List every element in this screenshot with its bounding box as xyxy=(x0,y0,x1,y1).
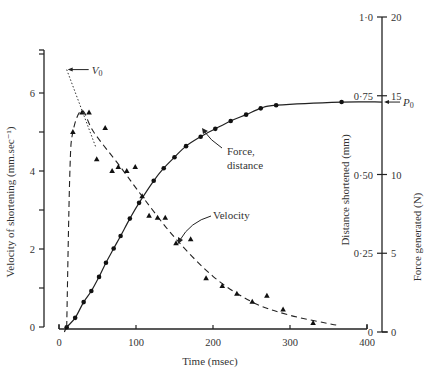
velocity-point xyxy=(155,215,161,220)
velocity-point xyxy=(86,110,92,115)
force-distance-point xyxy=(111,246,116,251)
velocity-point xyxy=(280,306,286,311)
y-left-tick-label: 2 xyxy=(30,244,35,255)
y-left-tick-label: 6 xyxy=(30,88,35,99)
y-distance-tick-label: 0·25 xyxy=(354,248,373,259)
force-distance-point xyxy=(137,201,142,206)
force-distance-point xyxy=(161,166,166,171)
x-tick-label: 0 xyxy=(56,337,61,348)
force-distance-point xyxy=(274,103,279,108)
velocity-point xyxy=(109,168,115,173)
force-distance-point xyxy=(213,127,218,132)
y-axis-distance-label: Distance shortened (mm) xyxy=(339,134,352,246)
series xyxy=(64,70,382,332)
force-distance-point xyxy=(97,275,102,280)
force-distance-point xyxy=(228,119,233,124)
velocity-point xyxy=(124,168,130,173)
p0-arrow-head xyxy=(384,100,389,104)
y-distance-tick-label: 0·75 xyxy=(354,91,373,102)
v0-arrow-head xyxy=(68,68,73,72)
force-distance-point xyxy=(118,234,123,239)
force-distance-point xyxy=(81,300,86,305)
y-axis-left-label: Velocity of shortening (mm.sec⁻¹) xyxy=(4,126,17,277)
velocity-label: Velocity xyxy=(213,209,250,221)
velocity-point xyxy=(234,291,240,296)
y-force-tick-label: 5 xyxy=(391,248,396,259)
y-force-tick-label: 15 xyxy=(391,91,402,102)
force-distance-label-line2: distance xyxy=(227,159,263,171)
v0-label: V0 xyxy=(92,64,103,78)
velocity-point xyxy=(219,283,225,288)
x-tick-label: 100 xyxy=(128,337,144,348)
chart: 010020030040002460050·25100·50150·75201·… xyxy=(0,0,428,375)
velocity-label-pointer-head xyxy=(178,237,183,244)
y-distance-tick-label: 0 xyxy=(368,327,373,338)
velocity-curve xyxy=(67,111,337,327)
p0-label: P0 xyxy=(402,96,414,110)
y-left-tick-label: 0 xyxy=(30,322,35,333)
force-distance-point xyxy=(339,100,344,105)
force-distance-point xyxy=(89,289,94,294)
velocity-point xyxy=(162,215,168,220)
velocity-point xyxy=(264,293,270,298)
x-tick-label: 200 xyxy=(205,337,221,348)
velocity-point xyxy=(115,164,121,169)
y-left-tick-label: 4 xyxy=(30,166,36,177)
force-distance-point xyxy=(73,316,78,321)
force-distance-point xyxy=(184,144,189,149)
x-axis-label: Time (msec) xyxy=(182,355,238,368)
y-distance-tick-label: 0·50 xyxy=(354,170,373,181)
velocity-label-pointer xyxy=(180,216,211,240)
v0-extrapolation-line xyxy=(67,70,96,148)
y-force-tick-label: 10 xyxy=(391,170,402,181)
velocity-point xyxy=(249,299,255,304)
y-distance-tick-label: 1·0 xyxy=(359,12,373,23)
velocity-point xyxy=(70,129,76,134)
force-distance-point xyxy=(151,179,156,184)
velocity-point xyxy=(94,156,100,161)
velocity-point xyxy=(203,275,209,280)
force-distance-point xyxy=(258,106,263,111)
force-distance-point xyxy=(244,112,249,117)
v0-subscript: 0 xyxy=(98,69,102,78)
x-tick-label: 400 xyxy=(359,337,375,348)
velocity-point xyxy=(146,213,152,218)
p0-subscript: 0 xyxy=(410,101,414,110)
y-axis-force-label: Force generated (N) xyxy=(411,192,424,281)
y-force-tick-label: 0 xyxy=(391,327,396,338)
velocity-point xyxy=(102,125,108,130)
velocity-point xyxy=(132,164,138,169)
force-distance-label-line1: Force, xyxy=(227,145,255,157)
force-distance-point xyxy=(104,260,109,265)
x-tick-label: 300 xyxy=(282,337,298,348)
force-distance-point xyxy=(198,134,203,139)
force-distance-point xyxy=(172,155,177,160)
velocity-point xyxy=(188,236,194,241)
force-distance-point xyxy=(128,216,133,221)
y-force-tick-label: 20 xyxy=(391,12,402,23)
